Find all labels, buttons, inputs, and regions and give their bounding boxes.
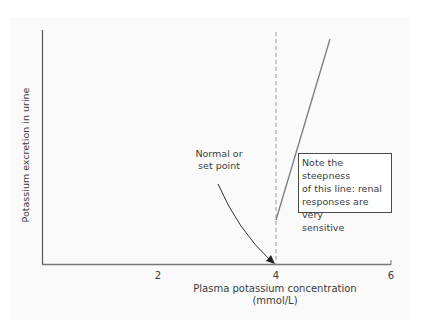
x-tick-2: 2 [155,270,161,282]
x-tick-4: 4 [273,270,279,282]
x-axis-label-line2: (mmol/L) [150,295,400,307]
y-axis-label: Potassium excretion in urine [20,88,31,223]
set-point-arrow [218,184,270,260]
set-point-label-line2: set point [188,160,250,172]
x-axis-label: Plasma potassium concentration (mmol/L) [150,283,400,307]
x-axis-label-line1: Plasma potassium concentration [150,283,400,295]
note-line3: responses are very [302,195,388,221]
note-line2: of this line: renal [302,182,388,195]
set-point-label: Normal or set point [188,148,250,172]
note-line4: sensitive [302,221,388,234]
note-line1: Note the steepness [302,156,388,182]
arrow-head-icon [266,255,275,264]
set-point-label-line1: Normal or [188,148,250,160]
x-tick-6: 6 [388,270,394,282]
steepness-note-box: Note the steepness of this line: renal r… [298,153,392,213]
